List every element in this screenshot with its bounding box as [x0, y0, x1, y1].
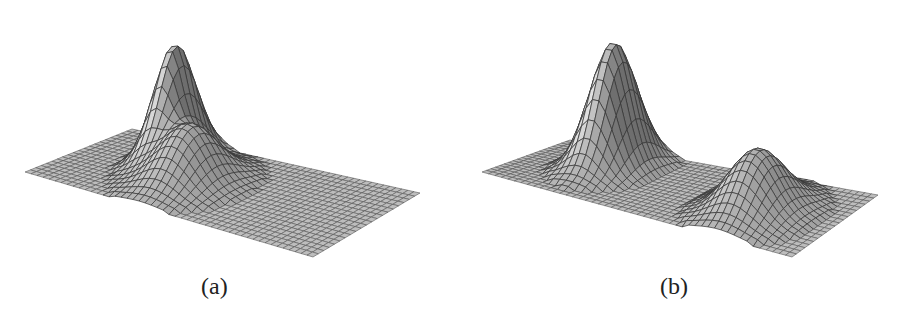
caption-a: (a) [201, 273, 228, 300]
panel-a: (a) [0, 0, 450, 324]
caption-b: (b) [660, 273, 688, 300]
panel-b: (b) [450, 0, 909, 324]
